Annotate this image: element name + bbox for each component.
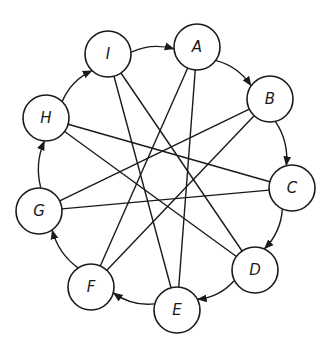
node-label: A (191, 38, 202, 56)
node-label: G (33, 202, 45, 220)
node-D: D (232, 247, 278, 293)
node-label: H (40, 109, 51, 127)
node-A: A (174, 24, 220, 70)
node-E: E (154, 287, 200, 333)
node-label: C (287, 179, 298, 197)
chord-I-E (114, 76, 171, 288)
node-label: D (249, 261, 261, 279)
arrow-F-to-G (52, 230, 77, 267)
node-F: F (68, 264, 114, 310)
node-label: F (87, 278, 96, 296)
arrow-E-to-F (114, 293, 155, 304)
node-G: G (16, 188, 62, 234)
node-H: H (23, 95, 69, 141)
chord-H-D (65, 132, 237, 257)
chord-H-C (68, 124, 270, 181)
node-label: I (106, 45, 111, 63)
node-B: B (247, 76, 293, 122)
arrow-D-to-E (198, 281, 234, 300)
arrow-H-to-I (62, 71, 91, 101)
graph-canvas: ABCDEFGHI (0, 0, 336, 350)
arrow-C-to-D (265, 209, 283, 248)
nodes: ABCDEFGHI (16, 24, 315, 333)
graph-diagram: ABCDEFGHI (0, 0, 336, 350)
node-I: I (85, 31, 131, 77)
chord-G-C (62, 190, 269, 209)
node-C: C (269, 165, 315, 211)
arrow-B-to-C (276, 122, 287, 165)
node-label: E (172, 301, 182, 319)
arrow-A-to-B (216, 61, 251, 86)
node-label: B (265, 90, 275, 108)
arrow-I-to-A (131, 46, 173, 52)
arrow-G-to-H (38, 141, 44, 187)
